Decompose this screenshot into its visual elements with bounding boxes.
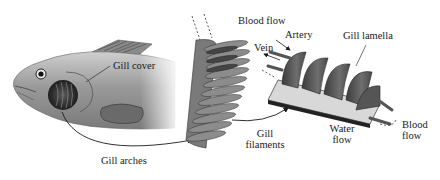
label-gill-arches: Gill arches	[101, 155, 147, 166]
gill-diagram: Gill cover Gill arches Gill filaments Bl…	[0, 0, 440, 180]
label-gill-cover: Gill cover	[113, 60, 155, 71]
label-artery: Artery	[285, 29, 312, 40]
diagram-artwork	[0, 0, 440, 180]
label-gill-lamella: Gill lamella	[343, 30, 393, 41]
label-blood-flow-top: Blood flow	[238, 15, 286, 26]
label-gill-filaments-line2: filaments	[236, 139, 294, 150]
arrow-to-lamella	[232, 108, 288, 121]
label-water-flow-line1: Water	[322, 123, 362, 134]
label-gill-filaments-line1: Gill	[236, 128, 294, 139]
lamella-illustration	[262, 40, 396, 128]
label-water-flow-line2: flow	[322, 134, 362, 145]
label-blood-flow-right-line1: Blood	[402, 119, 428, 130]
label-blood-flow-right: Blood flow	[402, 119, 428, 141]
label-blood-flow-right-line2: flow	[402, 130, 428, 141]
pectoral-fin	[100, 104, 143, 124]
label-vein: Vein	[254, 42, 273, 53]
fish-illustration	[13, 40, 180, 135]
label-gill-filaments: Gill filaments	[236, 128, 294, 150]
label-water-flow: Water flow	[322, 123, 362, 145]
